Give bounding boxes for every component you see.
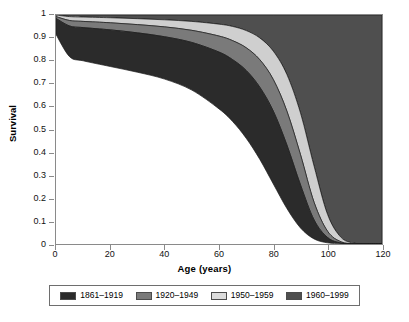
x-tick-label: 40 bbox=[144, 249, 184, 259]
legend-item: 1950–1959 bbox=[211, 291, 274, 300]
survival-chart: 00.10.20.30.40.50.60.70.80.91 Survival 0… bbox=[0, 0, 409, 322]
survival-bands-svg bbox=[56, 15, 382, 244]
y-tick-label: 0.2 bbox=[0, 194, 46, 203]
y-tick-mark bbox=[49, 245, 54, 246]
legend-item: 1920–1949 bbox=[136, 291, 199, 300]
y-tick-mark bbox=[49, 14, 54, 15]
x-tick-label: 20 bbox=[90, 249, 130, 259]
legend-label: 1960–1999 bbox=[306, 291, 349, 300]
y-axis-title: Survival bbox=[7, 89, 18, 159]
x-axis-title: Age (years) bbox=[0, 263, 409, 274]
y-tick-label: 0.3 bbox=[0, 171, 46, 180]
legend-item: 1861–1919 bbox=[60, 291, 123, 300]
x-tick-label: 60 bbox=[199, 249, 239, 259]
x-tick-mark bbox=[383, 245, 384, 250]
x-tick-label: 120 bbox=[363, 249, 403, 259]
x-tick-mark bbox=[328, 245, 329, 250]
legend-label: 1950–1959 bbox=[231, 291, 274, 300]
x-tick-mark bbox=[110, 245, 111, 250]
x-tick-label: 0 bbox=[35, 249, 75, 259]
y-tick-mark bbox=[49, 60, 54, 61]
legend-swatch-icon bbox=[211, 292, 227, 300]
y-tick-mark bbox=[49, 83, 54, 84]
y-tick-label: 0.9 bbox=[0, 32, 46, 41]
legend-swatch-icon bbox=[136, 292, 152, 300]
x-tick-label: 100 bbox=[308, 249, 348, 259]
legend-label: 1861–1919 bbox=[80, 291, 123, 300]
y-tick-mark bbox=[49, 106, 54, 107]
y-tick-mark bbox=[49, 130, 54, 131]
legend: 1861–19191920–19491950–19591960–1999 bbox=[49, 285, 360, 306]
y-tick-label: 0.7 bbox=[0, 78, 46, 87]
y-tick-label: 0.8 bbox=[0, 55, 46, 64]
legend-swatch-icon bbox=[60, 292, 76, 300]
y-tick-mark bbox=[49, 153, 54, 154]
x-tick-mark bbox=[219, 245, 220, 250]
legend-label: 1920–1949 bbox=[156, 291, 199, 300]
y-tick-mark bbox=[49, 222, 54, 223]
y-tick-label: 0 bbox=[0, 240, 46, 249]
plot-area bbox=[55, 14, 383, 245]
x-tick-mark bbox=[55, 245, 56, 250]
y-tick-label: 1 bbox=[0, 9, 46, 18]
y-tick-mark bbox=[49, 199, 54, 200]
y-tick-label: 0.1 bbox=[0, 217, 46, 226]
x-tick-mark bbox=[164, 245, 165, 250]
legend-item: 1960–1999 bbox=[286, 291, 349, 300]
x-tick-label: 80 bbox=[254, 249, 294, 259]
y-tick-mark bbox=[49, 37, 54, 38]
legend-swatch-icon bbox=[286, 292, 302, 300]
x-tick-mark bbox=[274, 245, 275, 250]
band-group bbox=[56, 15, 382, 244]
y-tick-mark bbox=[49, 176, 54, 177]
